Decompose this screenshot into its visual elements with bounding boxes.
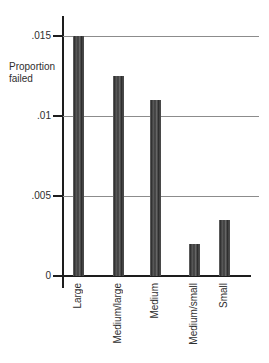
- bar: [113, 76, 124, 276]
- y-axis-line: [62, 16, 64, 288]
- x-tick-label: Medium/large: [112, 283, 124, 344]
- y-tick-mark: [53, 35, 63, 37]
- gridline: [63, 196, 259, 197]
- bar: [189, 244, 200, 276]
- bar: [219, 220, 230, 276]
- y-tick-label: .01: [0, 110, 51, 122]
- x-tick-label: Medium/small: [188, 283, 200, 345]
- y-tick-label: 0: [0, 270, 51, 282]
- x-tick-label: Medium: [149, 283, 161, 319]
- bar: [73, 36, 84, 276]
- y-axis-title: Proportion failed: [9, 61, 55, 84]
- gridline: [63, 116, 259, 117]
- bar: [150, 100, 161, 276]
- gridline: [63, 36, 259, 37]
- y-tick-label: .015: [0, 30, 51, 42]
- x-tick-label: Small: [218, 283, 230, 308]
- bar-chart-figure: Proportion failed 0.005.01.015 LargeMedi…: [0, 0, 269, 363]
- x-tick-label: Large: [72, 283, 84, 309]
- y-tick-mark: [53, 195, 63, 197]
- y-tick-mark: [53, 115, 63, 117]
- y-tick-label: .005: [0, 190, 51, 202]
